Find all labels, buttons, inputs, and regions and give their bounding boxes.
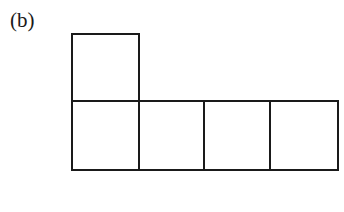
square-row-1 <box>72 101 139 170</box>
square-net-diagram <box>0 0 344 212</box>
square-row-2 <box>139 101 204 170</box>
square-top <box>72 34 139 101</box>
square-row-3 <box>204 101 270 170</box>
square-row-4 <box>270 101 338 170</box>
